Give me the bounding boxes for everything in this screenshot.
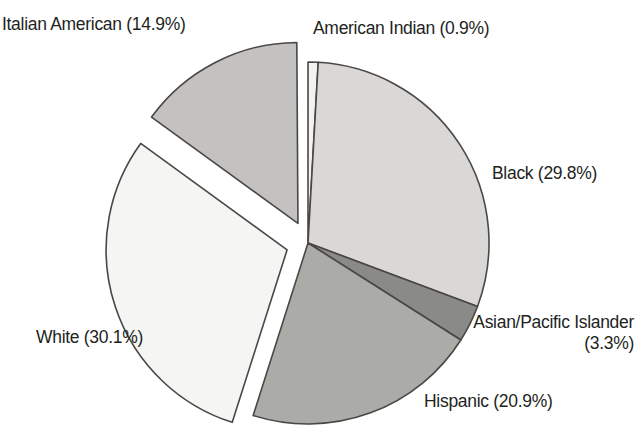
slice-label-italian-american: Italian American (14.9%)	[2, 14, 185, 35]
slice-label-hispanic: Hispanic (20.9%)	[424, 391, 552, 412]
pie-chart: Italian American (14.9%) American Indian…	[0, 0, 636, 431]
slice-label-asian-line2: (3.3%)	[584, 333, 634, 353]
slice-label-white: White (30.1%)	[36, 327, 143, 348]
pie-slice-group	[106, 42, 489, 424]
pie-chart-svg	[0, 0, 636, 431]
slice-label-american-indian: American Indian (0.9%)	[313, 18, 489, 39]
slice-label-asian-line1: Asian/Pacific Islander	[473, 312, 634, 332]
slice-label-asian-pacific-islander: Asian/Pacific Islander(3.3%)	[452, 312, 634, 354]
slice-label-black: Black (29.8%)	[492, 163, 597, 184]
